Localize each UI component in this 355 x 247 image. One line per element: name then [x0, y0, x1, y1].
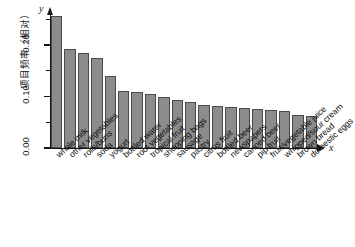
bar — [51, 16, 63, 148]
y-tick-label: 0.20 — [20, 26, 31, 60]
y-axis-symbol: y — [39, 3, 43, 14]
y-tick-label: 0.10 — [20, 78, 31, 112]
y-tick-label: 0.00 — [20, 130, 31, 164]
